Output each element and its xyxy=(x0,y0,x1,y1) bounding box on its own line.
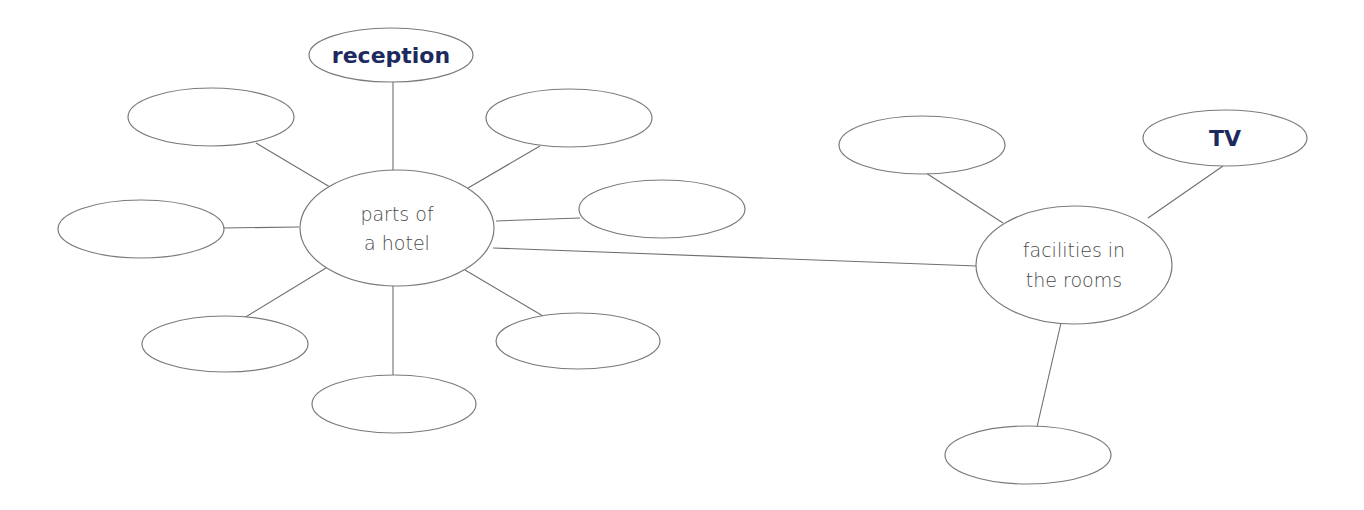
tv-answer: TV xyxy=(1209,126,1241,151)
answer-bubble-parts-bottom[interactable] xyxy=(312,375,476,433)
answer-bubble-parts-right[interactable] xyxy=(579,180,745,238)
answer-bubble-facilities-top-left[interactable] xyxy=(839,116,1005,174)
reception-answer: reception xyxy=(332,43,450,68)
answer-bubble-parts-bottom-left[interactable] xyxy=(142,316,308,372)
connector-parts-bottom-left xyxy=(244,268,326,318)
connector-hub-to-hub xyxy=(493,248,977,266)
parts-of-hotel-cluster: reception xyxy=(58,28,745,433)
connector-parts-top-left xyxy=(256,143,330,187)
answer-bubble-tv[interactable]: TV xyxy=(1143,110,1307,166)
hub-facilities-line-2: the rooms xyxy=(1026,269,1122,291)
answer-bubble-parts-left[interactable] xyxy=(58,200,224,258)
answer-bubble-parts-top-left[interactable] xyxy=(128,88,294,146)
connector-facilities-top-left xyxy=(926,173,1003,223)
connector-parts-left xyxy=(223,227,299,228)
connector-facilities-tv xyxy=(1148,166,1223,218)
mind-map-diagram: reception xyxy=(0,0,1364,510)
hub-facilities-line-1: facilities in xyxy=(1023,239,1125,261)
facilities-cluster: TV facilities in the rooms xyxy=(839,110,1307,484)
answer-bubble-parts-bottom-right[interactable] xyxy=(496,313,660,369)
connector-parts-top-right xyxy=(468,146,540,188)
hub-parts-of-hotel: parts of a hotel xyxy=(300,170,494,286)
answer-bubble-facilities-bottom[interactable] xyxy=(945,426,1111,484)
answer-bubble-parts-top-right[interactable] xyxy=(486,89,652,147)
connector-facilities-bottom xyxy=(1037,323,1061,427)
answer-bubble-reception[interactable]: reception xyxy=(309,28,473,82)
hub-parts-of-hotel-line-1: parts of xyxy=(360,203,434,225)
connector-parts-right xyxy=(496,218,580,221)
connector-parts-bottom-right xyxy=(465,270,543,316)
hub-parts-of-hotel-line-2: a hotel xyxy=(364,232,430,254)
hub-facilities-in-rooms: facilities in the rooms xyxy=(976,206,1172,324)
